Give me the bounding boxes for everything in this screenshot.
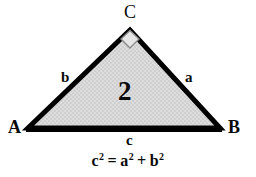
- formula-a-exponent: 2: [129, 151, 134, 162]
- side-label-c: c: [126, 133, 133, 148]
- formula-b-base: b: [150, 152, 159, 169]
- triangle-region-label: 2: [118, 78, 132, 105]
- side-label-a: a: [185, 70, 193, 85]
- formula-c-exponent: 2: [99, 151, 104, 162]
- formula-plus: +: [137, 152, 147, 169]
- vertex-label-c: C: [124, 3, 136, 21]
- formula-c-base: c: [91, 152, 99, 169]
- side-label-b: b: [61, 70, 69, 85]
- pythagorean-formula: c2=a2+b2: [0, 152, 256, 170]
- formula-equals: =: [108, 152, 118, 169]
- formula-a-base: a: [120, 152, 129, 169]
- vertex-label-a: A: [8, 118, 21, 136]
- formula-b-exponent: 2: [159, 151, 164, 162]
- pythagorean-theorem-figure: C A B b a c 2 c2=a2+b2: [0, 0, 256, 177]
- vertex-label-b: B: [228, 118, 240, 136]
